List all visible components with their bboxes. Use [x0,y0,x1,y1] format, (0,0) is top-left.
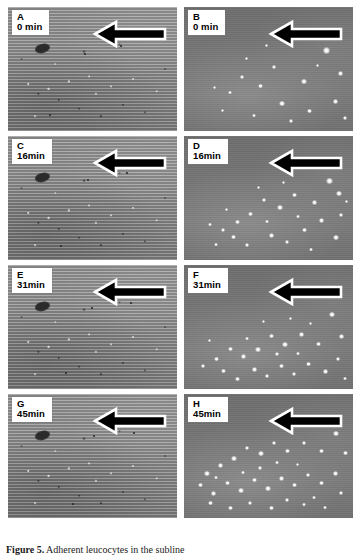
panel-timepoint: 16min [17,151,45,161]
fluor-spot [296,463,299,466]
fluor-spot [292,193,297,197]
fluor-spot [241,471,245,474]
fluor-spot [282,181,285,184]
figure-caption: Figure 5. Adherent leucocytes in the sub… [6,544,358,556]
fluor-spot [279,364,284,368]
fluor-spot [208,339,211,342]
panel-label-b: B 0 min [188,10,225,35]
fluor-spot [265,44,268,47]
fluor-spot [312,200,317,205]
fluor-spot [275,352,279,356]
fluor-spot [221,228,225,232]
fluor-spot [208,223,212,226]
fluor-spot [225,481,230,485]
fluor-spot [255,347,261,352]
fluor-spot [292,372,296,376]
debris-dot [84,53,86,55]
fluor-spot [309,322,312,325]
fluor-spot [257,186,260,189]
fluor-spot [333,471,338,476]
panel-d[interactable]: D 16min [184,136,353,260]
fluor-spot [238,488,244,493]
fluor-spot [269,334,274,338]
fluor-spot [218,463,223,468]
fluor-spot [214,357,219,361]
fluor-spot [211,491,216,496]
fluor-spot [316,342,321,346]
fluor-spot [245,446,249,450]
panel-label-f: F 31min [188,268,228,293]
fluor-spot [319,218,324,223]
fluor-spot [343,116,347,120]
fluor-spot [285,240,289,244]
figure-caption-label: Figure 5. [6,544,44,555]
fluor-spot [252,114,256,117]
fluor-spot [296,215,300,218]
fluor-spot [336,357,340,361]
debris-dot [93,435,95,437]
fluor-spot [204,471,210,476]
fluor-spot [299,332,304,337]
figure-caption-text: Adherent leucocytes in the subline [46,544,184,555]
panel-c[interactable]: C 16min [8,136,177,260]
panel-timepoint: 0 min [17,22,42,32]
panel-timepoint: 45min [17,409,45,419]
fluor-spot [343,377,347,380]
panel-a[interactable]: A 0 min [8,7,177,131]
fluor-spot [306,362,311,366]
fluor-spot [275,461,279,464]
fluor-spot [241,354,246,359]
debris-dot [49,114,51,116]
fluor-spot [221,109,224,112]
fluor-spot [258,84,263,88]
panel-f[interactable]: F 31min [184,265,353,389]
fluor-spot [265,374,269,378]
panel-b[interactable]: B 0 min [184,7,353,131]
fluor-spot [228,347,233,351]
fluor-spot [282,342,288,347]
fluor-spot [302,503,306,506]
fluor-spot [339,213,343,217]
fluor-spot [201,364,205,368]
fluor-spot [285,449,290,453]
panel-label-h: H 45min [188,397,228,422]
fluor-spot [336,191,342,196]
panel-label-d: D 16min [188,139,228,164]
panel-timepoint: 0 min [193,22,218,32]
fluor-spot [289,317,292,320]
fluor-spot [235,377,240,381]
fluor-spot [302,441,306,445]
fluor-spot [240,75,244,79]
panel-h[interactable]: H 45min [184,394,353,518]
panel-label-c: C 16min [12,139,52,164]
panel-e[interactable]: E 31min [8,265,177,389]
fluor-spot [231,235,236,239]
debris-dot [91,307,93,309]
fluor-spot [245,57,248,60]
fluor-spot [198,483,203,487]
fluor-spot [225,208,228,211]
fluor-spot [285,498,289,502]
fluor-spot [339,491,343,495]
fluor-spot [312,496,316,499]
fluor-spot [333,431,339,436]
fluor-spot [323,369,328,374]
fluor-spot [248,501,252,505]
fluor-spot [214,476,218,479]
panel-timepoint: 16min [193,151,221,161]
fluor-spot [343,451,348,455]
fluor-spot [319,449,324,453]
panel-label-g: G 45min [12,397,52,422]
fluor-spot [228,91,232,94]
fluor-spot [309,248,313,251]
fluor-spot [339,334,344,339]
fluor-spot [319,481,324,485]
fluor-spot [289,119,293,123]
fluor-spot [269,506,274,510]
fluor-spot [338,71,343,76]
fluor-spot [265,220,269,223]
panel-g[interactable]: G 45min [8,394,177,518]
fluor-spot [245,337,249,340]
fluor-spot [228,506,233,510]
fluor-spot [214,243,218,246]
